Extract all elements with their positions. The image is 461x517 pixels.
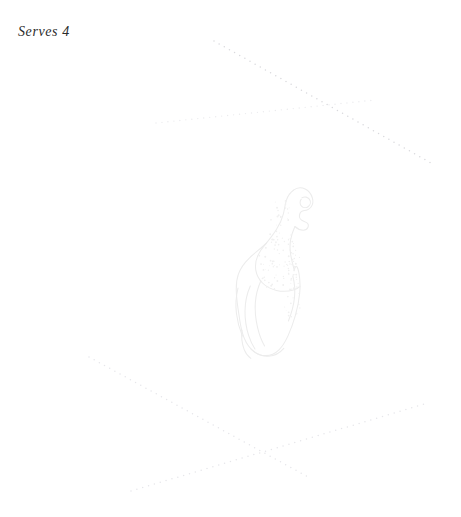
ham-muscle-seam-path: [255, 281, 264, 346]
ham-stipple-group: [258, 200, 300, 317]
serves-label: Serves 4: [18, 25, 70, 39]
dotted-rule-top-ascending: [155, 100, 371, 124]
dotted-rule-top-descending: [213, 40, 431, 163]
ham-body-outline-path: [236, 243, 300, 356]
ham-right-edge-inner-path: [288, 276, 294, 321]
ham-bottom-tip-path: [251, 348, 284, 356]
dotted-rule-bottom-descending: [88, 356, 307, 477]
ham-rind-fold-path: [236, 288, 242, 336]
ham-shoulder-cut-path: [255, 243, 299, 291]
ham-shank-right-path: [290, 227, 295, 271]
dotted-rule-bottom-ascending: [130, 404, 424, 492]
ham-muscle-seam-secondary-path: [245, 286, 255, 349]
recipe-page: Serves 4: [0, 0, 461, 517]
ham-outline-group: [236, 188, 313, 358]
leg-of-ham-illustration: [0, 0, 461, 517]
bone-knuckle-inner-path: [300, 197, 310, 208]
dotted-rules-group: [88, 40, 431, 492]
ham-rind-tip-path: [242, 330, 251, 358]
dotted-rules-layer: [0, 0, 461, 517]
ham-shank-left-path: [267, 190, 294, 243]
bone-knuckle-path: [294, 188, 313, 230]
